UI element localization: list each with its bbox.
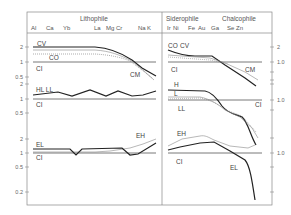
element-label: Fe	[188, 25, 196, 31]
tick-label: 2	[20, 136, 23, 142]
curve-label-el: EL	[36, 141, 44, 148]
curve-label-ci-right: CI	[176, 158, 183, 165]
curve-label-h: H	[174, 81, 179, 88]
element-label: Ni	[173, 25, 179, 31]
series-cv-right	[168, 50, 256, 86]
curve-label-hl-ll: HL LL	[36, 86, 53, 93]
curve-label-cv-right: CV	[180, 42, 190, 49]
curve-label-ci: CI	[36, 65, 43, 72]
curve-label-ci: CI	[36, 154, 43, 161]
group-label-lithophile: Lithophile	[80, 15, 108, 23]
element-label: Zn	[236, 25, 243, 31]
curve-label-ci: CI	[36, 101, 43, 108]
tick-label: 2	[20, 81, 23, 87]
curve-label-ci-right: CI	[171, 66, 178, 73]
ci-reference-lines	[33, 62, 262, 153]
curve-label-ll: LL	[178, 105, 186, 112]
tick-label: 1	[20, 59, 23, 65]
element-label: Cr	[116, 25, 122, 31]
curve-label-cm: CM	[130, 71, 140, 78]
element-label: Ca	[46, 25, 54, 31]
curve-label-cm-right: CM	[245, 66, 255, 73]
group-label-chalcophile: Chalcophile	[222, 15, 256, 23]
element-label: Se	[227, 25, 235, 31]
element-label: Ir	[167, 25, 171, 31]
chart-frame	[27, 12, 272, 205]
element-label: Ga	[211, 25, 220, 31]
tick-label: 0.5	[15, 164, 23, 170]
element-label: Yb	[63, 25, 71, 31]
curve-label-eh-right: EH	[177, 130, 186, 137]
tick-label: 1.0	[277, 150, 285, 156]
tick-label: 0.5	[15, 110, 23, 116]
tick-label: 0.5	[15, 74, 23, 80]
tick-label: 1.0	[277, 97, 285, 103]
curve-label-l: L	[174, 90, 178, 97]
group-label-siderophile: Siderophile	[166, 15, 199, 23]
element-label: Au	[198, 25, 205, 31]
right-axis-labels: 2 1.0 1.0 1.0	[277, 44, 285, 156]
curve-label-co: CO	[49, 54, 59, 61]
curve-label-eh: EH	[136, 132, 145, 139]
tick-label: 1	[20, 96, 23, 102]
tick-label: 2	[277, 44, 280, 50]
panel-enstatite-right	[168, 136, 255, 200]
curve-label-ci-right: CI	[255, 101, 262, 108]
series-ll-right	[168, 98, 256, 132]
element-label: La	[94, 25, 101, 31]
series-eh	[33, 139, 156, 152]
element-label: K	[147, 25, 151, 31]
element-label: Mg	[106, 25, 114, 31]
series-el-right	[168, 142, 255, 200]
curve-label-co-right: CO	[168, 42, 178, 49]
tick-label: 2	[20, 44, 23, 50]
element-label: Al	[31, 25, 36, 31]
element-labels: Al Ca Yb La Mg Cr Na K Ir Ni Fe Au Ga Se…	[31, 25, 243, 31]
curve-label-el-right: EL	[230, 164, 238, 171]
curve-label-cv: CV	[37, 40, 47, 47]
element-label: Na	[138, 25, 146, 31]
left-axis-labels: 2 1 0.5 2 1 0.5 2 1 0.5 0.2	[15, 44, 23, 195]
tick-label: 1.0	[277, 59, 285, 65]
chondrite-abundance-chart: Lithophile Siderophile Chalcophile Al Ca…	[0, 0, 291, 215]
tick-label: 1	[20, 150, 23, 156]
tick-label: 0.2	[15, 189, 23, 195]
